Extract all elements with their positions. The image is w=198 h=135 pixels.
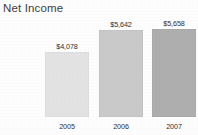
x-tick-label-2006: 2006 [113, 122, 129, 131]
bar-group-2006: $5,642 2006 [99, 30, 143, 117]
bar-group-2005: $4,078 2005 [45, 52, 89, 117]
x-tick-label-2005: 2005 [59, 122, 75, 131]
bar-2006 [99, 30, 143, 117]
bar-2005 [45, 52, 89, 117]
bar-value-label-2005: $4,078 [56, 42, 77, 51]
plot-area: $4,078 2005 $5,642 2006 $5,658 2007 [0, 0, 198, 135]
bar-value-label-2007: $5,658 [163, 19, 184, 28]
bar-2007 [152, 29, 196, 117]
x-tick-label-2007: 2007 [166, 122, 182, 131]
bar-group-2007: $5,658 2007 [152, 29, 196, 117]
net-income-bar-chart: Net Income $4,078 2005 $5,642 2006 $5,65… [0, 0, 198, 135]
bar-value-label-2006: $5,642 [110, 20, 131, 29]
